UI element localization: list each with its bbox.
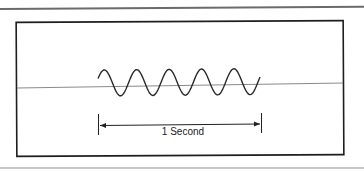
sine-wave-diagram bbox=[0, 0, 364, 172]
right-arrowhead-icon bbox=[254, 122, 260, 127]
left-arrowhead-icon bbox=[100, 123, 106, 128]
duration-label: 1 Second bbox=[140, 126, 226, 137]
sine-wave bbox=[98, 69, 260, 96]
